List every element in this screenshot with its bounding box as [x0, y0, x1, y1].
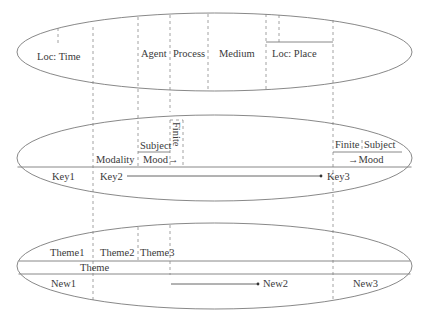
label-subject-right: Subject: [364, 139, 396, 150]
bottom-ellipse: [17, 223, 412, 309]
label-theme1: Theme1: [50, 247, 84, 258]
top-ellipse-group: Loc: Time Agent Process Medium Loc: Plac…: [17, 13, 412, 91]
bottom-ellipse-group: Theme1 Theme2 Theme3 Theme New1 New2 New…: [17, 223, 412, 309]
middle-ellipse-group: Subject Finite Modality Mood→ Finite Sub…: [17, 115, 412, 201]
label-modality: Modality: [96, 154, 135, 165]
label-process: Process: [173, 48, 205, 59]
label-theme: Theme: [80, 262, 109, 273]
label-key2: Key2: [100, 171, 123, 182]
label-theme3: Theme3: [140, 247, 174, 258]
label-new3: New3: [353, 278, 378, 289]
label-theme2: Theme2: [100, 247, 134, 258]
label-loc-place: Loc: Place: [272, 48, 317, 59]
label-medium: Medium: [219, 48, 255, 59]
label-new2: New2: [263, 278, 288, 289]
label-loc-time: Loc: Time: [37, 51, 81, 62]
label-subject-left: Subject: [140, 140, 172, 151]
label-mood-right: →Mood: [348, 154, 384, 165]
label-finite-right: Finite: [335, 139, 360, 150]
arrowhead-dot-key3: [320, 175, 323, 178]
label-key1: Key1: [52, 171, 75, 182]
metafunction-diagram: Loc: Time Agent Process Medium Loc: Plac…: [0, 0, 430, 319]
label-key3: Key3: [327, 171, 350, 182]
arrowhead-dot-new2: [257, 283, 260, 286]
label-finite-left: Finite: [171, 122, 182, 147]
label-new1: New1: [51, 278, 76, 289]
label-mood-left: Mood→: [143, 154, 179, 165]
label-agent: Agent: [141, 48, 167, 59]
